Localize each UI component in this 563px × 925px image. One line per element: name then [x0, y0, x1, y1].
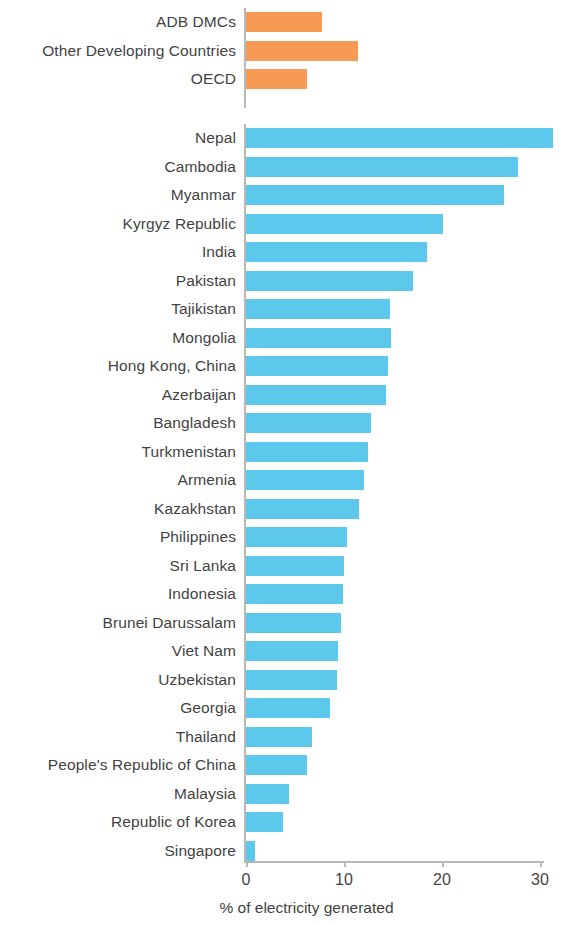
bar-row: People's Republic of China: [0, 751, 563, 780]
economy-label: Tajikistan: [171, 300, 236, 318]
economy-bar: [246, 556, 344, 576]
economy-bar: [246, 356, 388, 376]
economy-bar: [246, 670, 337, 690]
economy-bar: [246, 185, 504, 205]
bar-row: Hong Kong, China: [0, 352, 563, 381]
aggregate-bar: [246, 12, 322, 32]
bar-row: Cambodia: [0, 153, 563, 182]
economy-bar: [246, 784, 289, 804]
bar-row: OECD: [0, 65, 563, 94]
bar-track: [246, 670, 337, 690]
economy-bar: [246, 727, 312, 747]
bar-row: Armenia: [0, 466, 563, 495]
bar-row: Bangladesh: [0, 409, 563, 438]
economy-label: Sri Lanka: [170, 557, 236, 575]
economy-label: Armenia: [178, 471, 236, 489]
bar-track: [246, 584, 343, 604]
bar-row: Viet Nam: [0, 637, 563, 666]
bar-row: Turkmenistan: [0, 438, 563, 467]
bar-track: [246, 271, 413, 291]
economy-bar: [246, 385, 386, 405]
x-axis-tick: [540, 861, 542, 867]
economy-label: Thailand: [176, 728, 236, 746]
bar-track: [246, 812, 283, 832]
bar-row: Sri Lanka: [0, 552, 563, 581]
economy-label: Viet Nam: [172, 642, 236, 660]
aggregate-bar: [246, 69, 307, 89]
economy-label: Azerbaijan: [162, 386, 236, 404]
economy-bar: [246, 413, 371, 433]
economy-label: Brunei Darussalam: [102, 614, 236, 632]
bar-track: [246, 556, 344, 576]
aggregate-label: ADB DMCs: [156, 13, 236, 31]
bar-row: Republic of Korea: [0, 808, 563, 837]
economy-bar: [246, 470, 364, 490]
aggregate-label: Other Developing Countries: [42, 42, 236, 60]
x-axis-tick-label: 30: [531, 871, 549, 889]
bar-track: [246, 242, 427, 262]
bar-track: [246, 385, 386, 405]
bar-row: Uzbekistan: [0, 666, 563, 695]
bar-track: [246, 641, 338, 661]
bar-track: [246, 157, 518, 177]
bar-row: ADB DMCs: [0, 8, 563, 37]
economy-label: Singapore: [164, 842, 236, 860]
economy-label: Hong Kong, China: [108, 357, 236, 375]
economy-label: Georgia: [180, 699, 236, 717]
economy-label: Nepal: [195, 129, 236, 147]
bar-track: [246, 470, 364, 490]
bar-row: Philippines: [0, 523, 563, 552]
economy-bar: [246, 442, 368, 462]
economy-label: Kyrgyz Republic: [123, 215, 237, 233]
economy-bar: [246, 328, 391, 348]
x-axis-tick: [442, 861, 444, 867]
aggregate-bar: [246, 41, 358, 61]
bar-track: [246, 214, 443, 234]
bar-row: Kazakhstan: [0, 495, 563, 524]
economy-label: Turkmenistan: [141, 443, 236, 461]
economy-bar: [246, 271, 413, 291]
bar-row: Malaysia: [0, 780, 563, 809]
economy-label: Bangladesh: [153, 414, 236, 432]
x-axis-tick-label: 0: [242, 871, 251, 889]
bar-row: Georgia: [0, 694, 563, 723]
bar-track: [246, 499, 359, 519]
economy-bar: [246, 841, 255, 861]
economy-bar: [246, 214, 443, 234]
x-axis-line: [244, 861, 544, 863]
x-axis-tick: [344, 861, 346, 867]
economy-label: Mongolia: [172, 329, 236, 347]
economy-label: Pakistan: [176, 272, 236, 290]
economy-label: India: [202, 243, 236, 261]
economy-label: Cambodia: [165, 158, 236, 176]
bar-track: [246, 413, 371, 433]
bar-row: Kyrgyz Republic: [0, 210, 563, 239]
economy-label: People's Republic of China: [48, 756, 236, 774]
bar-row: Tajikistan: [0, 295, 563, 324]
bar-row: Indonesia: [0, 580, 563, 609]
bar-row: Nepal: [0, 124, 563, 153]
economy-bar: [246, 527, 347, 547]
x-axis-tick: [246, 861, 248, 867]
economy-bar: [246, 698, 330, 718]
bar-track: [246, 841, 255, 861]
economy-bar: [246, 641, 338, 661]
economy-bar: [246, 812, 283, 832]
bar-track: [246, 69, 307, 89]
economy-bars-group: NepalCambodiaMyanmarKyrgyz RepublicIndia…: [0, 124, 563, 865]
bar-track: [246, 41, 358, 61]
bar-track: [246, 356, 388, 376]
bar-track: [246, 784, 289, 804]
x-axis: 0102030 % of electricity generated: [0, 861, 563, 925]
economy-label: Uzbekistan: [158, 671, 236, 689]
bar-track: [246, 12, 322, 32]
economy-bar: [246, 499, 359, 519]
economy-label: Philippines: [160, 528, 236, 546]
economy-bar: [246, 584, 343, 604]
bar-track: [246, 328, 391, 348]
economy-label: Republic of Korea: [111, 813, 236, 831]
aggregate-bars-group: ADB DMCsOther Developing CountriesOECD: [0, 8, 563, 94]
bar-track: [246, 755, 307, 775]
bar-track: [246, 698, 330, 718]
bar-row: Azerbaijan: [0, 381, 563, 410]
